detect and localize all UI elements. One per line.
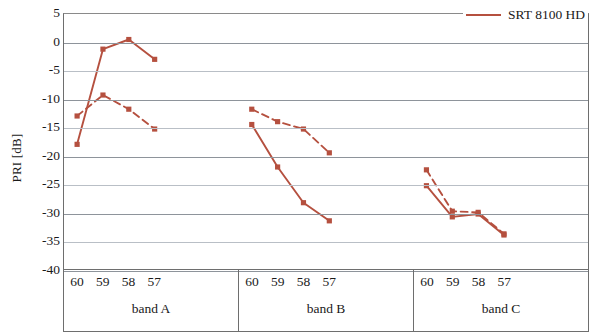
data-point-marker xyxy=(152,57,157,62)
x-tick-label: 57 xyxy=(148,275,162,289)
x-tick-label: 58 xyxy=(472,275,486,289)
x-tick-label: 59 xyxy=(271,275,285,289)
x-tick-group: 60595857 xyxy=(414,270,588,300)
data-point-marker xyxy=(327,218,332,223)
x-tick-label: 59 xyxy=(446,275,460,289)
x-axis-band-label: band A xyxy=(64,302,238,316)
x-axis-band-label: band B xyxy=(239,302,413,316)
gridline xyxy=(64,71,588,72)
y-tick-label: -15 xyxy=(16,120,60,134)
data-point-marker xyxy=(100,92,105,97)
y-tick-label: 0 xyxy=(16,35,60,49)
series-layer xyxy=(64,14,588,269)
y-tick-label: -5 xyxy=(16,63,60,77)
data-point-marker xyxy=(501,231,506,236)
series-line xyxy=(252,125,330,221)
data-point-marker xyxy=(100,47,105,52)
data-point-marker xyxy=(327,150,332,155)
x-axis-band: 60595857band B xyxy=(238,270,413,331)
gridline xyxy=(64,242,588,243)
x-tick-label: 59 xyxy=(96,275,110,289)
series-line xyxy=(426,186,504,235)
x-axis-band-label: band C xyxy=(414,302,588,316)
chart-legend: SRT 8100 HD xyxy=(463,7,588,23)
series-line xyxy=(252,109,330,153)
x-tick-label: 60 xyxy=(420,275,434,289)
gridline xyxy=(64,43,588,44)
y-tick-label: -30 xyxy=(16,206,60,220)
x-tick-label: 58 xyxy=(297,275,311,289)
y-tick-label: -35 xyxy=(16,235,60,249)
y-axis-tick-labels: 50-5-10-15-20-25-30-35-40 xyxy=(14,0,60,336)
data-point-marker xyxy=(75,142,80,147)
series-line xyxy=(426,170,504,234)
legend-label: SRT 8100 HD xyxy=(508,8,585,22)
x-axis-band: 60595857band C xyxy=(413,270,588,331)
gridline xyxy=(64,100,588,101)
y-tick-label: -10 xyxy=(16,92,60,106)
x-axis: 60595857band A60595857band B60595857band… xyxy=(63,270,589,332)
data-point-marker xyxy=(249,107,254,112)
gridline xyxy=(64,128,588,129)
x-tick-label: 60 xyxy=(245,275,259,289)
data-point-marker xyxy=(275,119,280,124)
plot-area xyxy=(63,13,589,270)
y-tick-label: 5 xyxy=(16,6,60,20)
y-tick-label: -40 xyxy=(16,263,60,277)
gridline xyxy=(64,185,588,186)
data-point-marker xyxy=(275,164,280,169)
gridline xyxy=(64,214,588,215)
legend-line-swatch xyxy=(466,14,501,16)
data-point-marker xyxy=(450,214,455,219)
data-point-marker xyxy=(424,167,429,172)
data-point-marker xyxy=(249,122,254,127)
x-axis-band: 60595857band A xyxy=(64,270,238,331)
gridline xyxy=(64,157,588,158)
x-tick-label: 58 xyxy=(122,275,136,289)
x-tick-label: 57 xyxy=(498,275,512,289)
data-point-marker xyxy=(75,113,80,118)
x-tick-label: 57 xyxy=(323,275,337,289)
data-point-marker xyxy=(126,37,131,42)
x-tick-label: 60 xyxy=(70,275,84,289)
data-point-marker xyxy=(126,107,131,112)
chart-container: PRI [dB] 50-5-10-15-20-25-30-35-40 SRT 8… xyxy=(0,0,595,336)
y-tick-label: -25 xyxy=(16,178,60,192)
y-tick-label: -20 xyxy=(16,149,60,163)
x-tick-group: 60595857 xyxy=(239,270,413,300)
data-point-marker xyxy=(301,200,306,205)
x-tick-group: 60595857 xyxy=(64,270,238,300)
